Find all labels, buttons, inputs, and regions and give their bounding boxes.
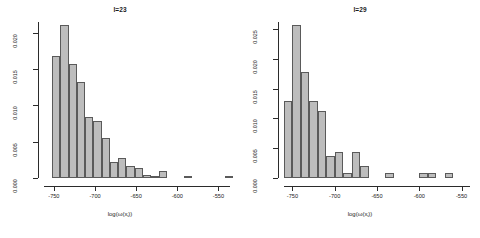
histogram-bar <box>184 176 192 178</box>
x-tick-mark <box>177 186 178 191</box>
panel-left-title: l=23 <box>0 6 240 13</box>
histogram-bar <box>419 173 427 178</box>
histogram-bar <box>326 156 334 178</box>
y-tick-label: 0.020 <box>240 55 270 63</box>
histogram-bar <box>360 166 368 179</box>
x-tick-mark <box>54 186 55 191</box>
histogram-bar <box>352 152 360 178</box>
y-tick-label: 0.010 <box>0 101 30 109</box>
panel-left-y-axis-line <box>38 22 39 178</box>
y-tick-mark <box>33 69 38 70</box>
y-tick-label: 0.010 <box>240 114 270 122</box>
histogram-bar <box>159 171 167 178</box>
x-tick-mark <box>292 186 293 191</box>
y-tick-mark <box>273 89 278 90</box>
y-tick-mark <box>273 178 278 179</box>
histogram-bar <box>102 138 110 178</box>
x-tick-label: -550 <box>213 193 224 199</box>
x-tick-mark <box>462 186 463 191</box>
y-tick-label: 0.015 <box>240 85 270 93</box>
panel-right-xlabel-main: log(ω(x <box>348 211 368 217</box>
y-tick-label: 0.000 <box>0 174 30 182</box>
panel-left-bars <box>44 22 230 178</box>
x-tick-label: -750 <box>287 193 298 199</box>
histogram-bar <box>60 25 68 178</box>
y-tick-mark <box>33 178 38 179</box>
x-tick-mark <box>218 186 219 191</box>
histogram-bar <box>309 101 317 178</box>
histogram-bar <box>77 82 85 179</box>
histogram-bar <box>151 176 159 178</box>
x-tick-label: -700 <box>89 193 100 199</box>
y-tick-mark <box>273 148 278 149</box>
panel-left-x-axis-title: log(ω(xi)) <box>0 211 240 217</box>
histogram-bar <box>69 64 77 178</box>
panel-right-xlabel-tail: )) <box>368 211 372 217</box>
y-tick-label: 0.005 <box>0 138 30 146</box>
histogram-bar <box>445 173 453 178</box>
x-tick-label: -550 <box>456 193 467 199</box>
histogram-bar <box>428 173 436 178</box>
histogram-figure: l=23 0.0000.0050.0100.0150.020 -750-700-… <box>0 0 480 238</box>
y-tick-mark <box>273 118 278 119</box>
panel-left-plot-area <box>44 22 230 178</box>
histogram-bar <box>301 72 309 178</box>
x-tick-mark <box>377 186 378 191</box>
panel-right-plot-area <box>284 22 470 178</box>
y-tick-mark <box>273 59 278 60</box>
x-tick-mark <box>419 186 420 191</box>
x-tick-mark <box>335 186 336 191</box>
panel-left-xlabel-main: log(ω(x <box>108 211 128 217</box>
y-tick-label: 0.020 <box>0 29 30 37</box>
x-tick-mark <box>136 186 137 191</box>
histogram-bar <box>85 117 93 178</box>
histogram-bar <box>135 168 143 178</box>
x-tick-label: -600 <box>172 193 183 199</box>
panel-left-xlabel-tail: )) <box>128 211 132 217</box>
histogram-bar <box>52 56 60 178</box>
panel-right-bars <box>284 22 470 178</box>
y-tick-mark <box>273 29 278 30</box>
y-tick-label: 0.025 <box>240 25 270 33</box>
histogram-bar <box>225 176 233 178</box>
histogram-bar <box>335 152 343 178</box>
panel-left: l=23 0.0000.0050.0100.0150.020 -750-700-… <box>0 0 240 238</box>
x-tick-label: -750 <box>48 193 59 199</box>
x-tick-mark <box>95 186 96 191</box>
panel-right-x-axis-title: log(ω(xi)) <box>240 211 480 217</box>
y-tick-label: 0.015 <box>0 65 30 73</box>
x-tick-label: -700 <box>329 193 340 199</box>
y-tick-label: 0.000 <box>240 174 270 182</box>
panel-right-y-axis-line <box>278 22 279 178</box>
histogram-bar <box>385 173 393 178</box>
histogram-bar <box>93 121 101 178</box>
y-tick-label: 0.005 <box>240 144 270 152</box>
histogram-bar <box>292 25 300 178</box>
panel-right-title: l=29 <box>240 6 480 13</box>
x-tick-label: -600 <box>414 193 425 199</box>
histogram-bar <box>110 162 118 178</box>
panel-right: l=29 0.0000.0050.0100.0150.0200.025 -750… <box>240 0 480 238</box>
histogram-bar <box>126 166 134 178</box>
histogram-bar <box>318 111 326 178</box>
x-tick-label: -650 <box>131 193 142 199</box>
histogram-bar <box>343 173 351 178</box>
histogram-bar <box>118 158 126 178</box>
x-tick-label: -650 <box>371 193 382 199</box>
y-tick-mark <box>33 105 38 106</box>
histogram-bar <box>284 101 292 178</box>
y-tick-mark <box>33 33 38 34</box>
y-tick-mark <box>33 142 38 143</box>
histogram-bar <box>143 175 151 178</box>
